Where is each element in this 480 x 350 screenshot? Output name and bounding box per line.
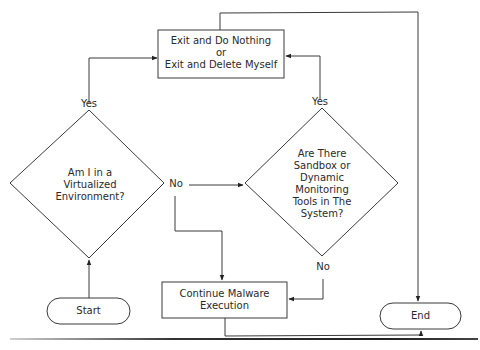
virtualized-decision-label: Am I in a Virtualized Environment? (40, 167, 140, 203)
bottom-rule (10, 338, 478, 340)
edge-virtualized-yes (89, 58, 157, 103)
yes-label-right: Yes (305, 96, 335, 108)
end-terminator-label: End (380, 310, 461, 322)
start-terminator-label: Start (47, 305, 130, 317)
yes-label-left: Yes (74, 98, 104, 110)
sandbox-decision-label: Are There Sandbox or Dynamic Monitoring … (272, 148, 372, 220)
no-label-right: No (310, 261, 336, 273)
edge-sandbox-no (289, 279, 323, 299)
edge-sandbox-yes (286, 56, 320, 100)
continue-box-label: Continue Malware Execution (162, 288, 287, 312)
edge-virtualized-no-to-continue (175, 196, 222, 280)
no-label-left: No (164, 178, 188, 190)
exit-box-label: Exit and Do Nothing or Exit and Delete M… (158, 35, 284, 71)
